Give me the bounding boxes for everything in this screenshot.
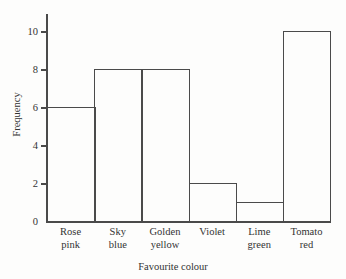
x-axis-tick-label: Goldenyellow — [141, 226, 188, 256]
bar — [94, 69, 143, 222]
x-axis-tick-label-line: Lime — [236, 226, 283, 239]
x-axis-tick-label-line: Rose — [47, 226, 94, 239]
x-axis-tick-label: Tomatored — [283, 226, 330, 256]
bar — [189, 183, 238, 222]
bar-chart-figure: 0246810 RosepinkSkyblueGoldenyellowViole… — [0, 0, 346, 279]
y-axis-tick — [41, 145, 47, 146]
x-axis-tick-label-line: Sky — [94, 226, 141, 239]
x-axis-title: Favourite colour — [0, 261, 346, 272]
y-axis-title: Frequency — [11, 70, 22, 160]
x-axis-tick-label-line: Tomato — [283, 226, 330, 239]
y-axis-tick — [41, 31, 47, 32]
bar — [283, 31, 332, 222]
x-axis-tick-label-line: pink — [47, 239, 94, 252]
bar — [236, 202, 285, 222]
x-axis-tick-label-line: Golden — [141, 226, 188, 239]
y-axis-tick-label: 10 — [0, 27, 38, 38]
x-axis-tick-label: Limegreen — [236, 226, 283, 256]
x-axis-tick-label-line: yellow — [141, 239, 188, 252]
y-axis-tick — [41, 107, 47, 108]
bar — [141, 69, 190, 222]
plot-area — [47, 14, 330, 222]
x-axis-tick-labels: RosepinkSkyblueGoldenyellowVioletLimegre… — [47, 226, 330, 256]
x-axis-line — [46, 221, 331, 223]
y-axis-tick — [41, 69, 47, 70]
x-axis-tick-label-line: Violet — [189, 226, 236, 239]
x-axis-tick-label-line: green — [236, 239, 283, 252]
y-axis-tick-label: 2 — [0, 179, 38, 190]
x-axis-tick-label-line: blue — [94, 239, 141, 252]
x-axis-tick-label: Violet — [189, 226, 236, 256]
bar — [47, 107, 96, 222]
y-axis-tick — [41, 183, 47, 184]
x-axis-tick-label-line: red — [283, 239, 330, 252]
y-axis-line — [46, 14, 48, 223]
x-axis-tick-label: Skyblue — [94, 226, 141, 256]
x-axis-tick-label: Rosepink — [47, 226, 94, 256]
y-axis-tick-label: 0 — [0, 217, 38, 228]
